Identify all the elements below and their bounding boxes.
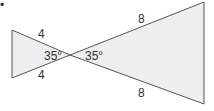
similar-triangles-diagram: • 4 4 35° 35° 8 8 [0, 0, 214, 111]
left-angle-label: 35° [44, 49, 62, 63]
right-bottom-side-label: 8 [138, 86, 145, 100]
right-top-side-label: 8 [138, 12, 145, 26]
left-bottom-side-label: 4 [38, 68, 45, 82]
left-top-side-label: 4 [38, 27, 45, 41]
bullet-marker: • [0, 0, 4, 12]
right-angle-label: 35° [85, 49, 103, 63]
